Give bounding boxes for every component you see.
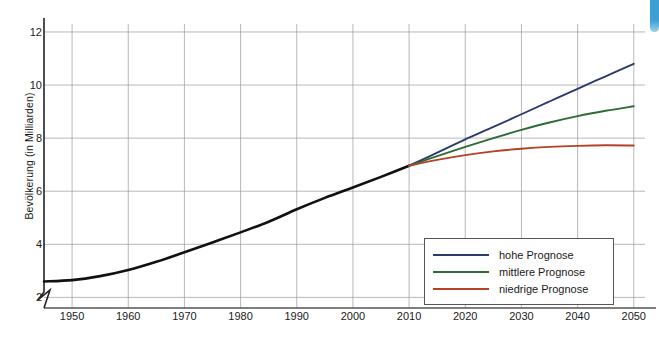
chart-legend: hohe Prognose mittlere Prognose niedrige… [424,238,614,305]
legend-label-niedrige: niedrige Prognose [499,283,588,295]
legend-label-mittlere: mittlere Prognose [499,266,585,278]
series-line [44,166,409,282]
population-forecast-chart: Bevölkerung (in Milliarden) 24681012 195… [0,0,659,342]
legend-item[interactable]: mittlere Prognose [433,263,605,280]
axis-break-icon [38,288,50,308]
legend-swatch-hohe [433,254,489,256]
legend-swatch-niedrige [433,288,489,290]
legend-label-hohe: hohe Prognose [499,249,574,261]
legend-item[interactable]: hohe Prognose [433,246,605,263]
legend-swatch-mittlere [433,271,489,273]
legend-item[interactable]: niedrige Prognose [433,280,605,297]
